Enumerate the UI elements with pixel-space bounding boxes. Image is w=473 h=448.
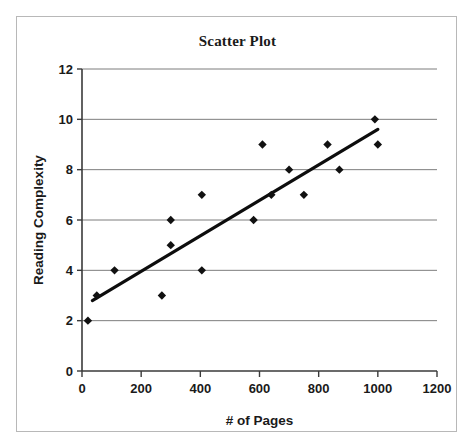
data-point-marker xyxy=(249,216,257,224)
y-tick-label: 4 xyxy=(66,263,74,278)
data-point-marker xyxy=(158,291,166,299)
data-point-marker xyxy=(198,266,206,274)
x-tick-label: 200 xyxy=(130,381,152,396)
data-point-marker xyxy=(84,316,92,324)
data-point-marker xyxy=(198,191,206,199)
x-axis-title: # of Pages xyxy=(226,413,294,428)
data-point-marker xyxy=(371,115,379,123)
chart-frame: Scatter Plot 024681012020040060080010001… xyxy=(16,16,457,432)
x-tick-label: 400 xyxy=(189,381,211,396)
data-point-marker xyxy=(167,241,175,249)
data-point-marker xyxy=(300,191,308,199)
data-point-marker xyxy=(110,266,118,274)
x-tick-label: 800 xyxy=(308,381,330,396)
y-tick-label: 0 xyxy=(66,364,73,379)
x-tick-label: 600 xyxy=(249,381,271,396)
x-tick-label: 1200 xyxy=(423,381,452,396)
y-tick-label: 6 xyxy=(66,213,73,228)
x-tick-label: 0 xyxy=(78,381,85,396)
y-axis-title: Reading Complexity xyxy=(31,155,46,285)
scatter-plot-svg: 024681012020040060080010001200# of Pages… xyxy=(17,17,458,433)
data-point-marker xyxy=(285,165,293,173)
data-point-marker xyxy=(374,140,382,148)
data-point-marker xyxy=(258,140,266,148)
y-tick-label: 2 xyxy=(66,313,73,328)
trendline xyxy=(92,129,377,300)
y-tick-label: 10 xyxy=(59,112,73,127)
data-point-marker xyxy=(167,216,175,224)
data-point-marker xyxy=(335,165,343,173)
x-tick-label: 1000 xyxy=(363,381,392,396)
y-tick-label: 12 xyxy=(59,62,73,77)
data-point-marker xyxy=(323,140,331,148)
y-tick-label: 8 xyxy=(66,162,73,177)
